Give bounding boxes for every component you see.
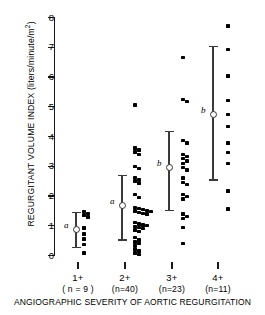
- data-point: [226, 189, 229, 192]
- error-bar-cap-lower: [165, 210, 174, 211]
- data-point: [141, 223, 144, 226]
- error-bar-cap-upper: [72, 212, 81, 213]
- data-point: [226, 74, 229, 77]
- x-axis-tick: [77, 262, 78, 269]
- error-bar-cap-upper: [209, 46, 218, 47]
- data-point: [145, 224, 148, 227]
- error-bar-cap-lower: [209, 179, 218, 180]
- data-point: [137, 196, 140, 199]
- data-point: [133, 165, 136, 168]
- data-point: [181, 166, 184, 169]
- data-point: [133, 193, 136, 196]
- data-point: [82, 243, 85, 246]
- data-point: [133, 209, 136, 212]
- data-point: [137, 181, 140, 184]
- data-point: [181, 98, 184, 101]
- x-axis-tick: [124, 262, 125, 269]
- data-point: [133, 179, 136, 182]
- data-point: [141, 212, 144, 215]
- error-bar-cap-upper: [165, 131, 174, 132]
- significance-letter: b: [157, 159, 162, 168]
- data-point: [226, 162, 229, 165]
- data-point: [226, 141, 229, 144]
- mean-marker: [166, 164, 173, 171]
- data-point: [82, 226, 85, 229]
- data-point: [226, 48, 229, 51]
- data-point: [181, 193, 184, 196]
- data-point: [181, 217, 184, 220]
- data-point: [185, 141, 188, 144]
- data-point: [226, 151, 229, 154]
- significance-letter: a: [64, 221, 69, 230]
- error-bar-cap-lower: [72, 247, 81, 248]
- data-point: [133, 221, 136, 224]
- data-point: [137, 211, 140, 214]
- data-point: [86, 215, 89, 218]
- data-point: [141, 227, 144, 230]
- data-point: [133, 228, 136, 231]
- data-point: [141, 208, 144, 211]
- data-point: [185, 183, 188, 186]
- significance-letter: a: [110, 197, 115, 206]
- mean-marker: [73, 226, 80, 233]
- data-point: [181, 242, 184, 245]
- significance-letter: b: [201, 106, 206, 115]
- data-point: [137, 153, 140, 156]
- data-point: [137, 167, 140, 170]
- data-point: [145, 212, 148, 215]
- data-point: [82, 213, 85, 216]
- data-point: [181, 226, 184, 229]
- x-axis-title: ANGIOGRAPHIC SEVERITY OF AORTIC REGURGIT…: [0, 297, 265, 307]
- x-axis-category-label: 4+: [188, 272, 248, 283]
- mean-marker: [119, 202, 126, 209]
- scatter-plot-figure: 012345678 REGURGITANT VOLUME INDEX (lite…: [0, 0, 265, 315]
- data-point: [137, 253, 140, 256]
- data-point: [133, 103, 136, 106]
- data-point: [133, 150, 136, 153]
- error-bar-cap-lower: [118, 239, 127, 240]
- data-point: [181, 197, 184, 200]
- data-point: [226, 125, 229, 128]
- data-point: [82, 251, 85, 254]
- x-axis-sample-size-label: (n=11): [183, 284, 253, 294]
- data-point: [137, 226, 140, 229]
- data-point: [181, 212, 184, 215]
- data-point: [185, 195, 188, 198]
- data-point: [181, 153, 184, 156]
- data-point: [137, 207, 140, 210]
- data-point: [133, 236, 136, 239]
- data-point: [226, 24, 229, 27]
- x-axis-tick: [171, 262, 172, 269]
- data-point: [185, 168, 188, 171]
- error-bar-cap-upper: [118, 175, 127, 176]
- data-point: [185, 100, 188, 103]
- data-point: [185, 215, 188, 218]
- data-point: [133, 247, 136, 250]
- data-point: [149, 210, 152, 213]
- data-point: [226, 207, 229, 210]
- data-point: [133, 146, 136, 149]
- data-point: [185, 159, 188, 162]
- data-point: [181, 139, 184, 142]
- data-point: [226, 99, 229, 102]
- data-point: [137, 148, 140, 151]
- data-point: [185, 155, 188, 158]
- x-axis-tick: [217, 262, 218, 269]
- data-point: [133, 251, 136, 254]
- data-point: [137, 242, 140, 245]
- data-point: [181, 162, 184, 165]
- data-point: [181, 176, 184, 179]
- data-point: [181, 181, 184, 184]
- data-point: [82, 232, 85, 235]
- data-point: [181, 157, 184, 160]
- data-point: [181, 56, 184, 59]
- data-group-4plus: b: [0, 0, 60, 262]
- data-point: [137, 230, 140, 233]
- mean-marker: [210, 111, 217, 118]
- data-point: [82, 237, 85, 240]
- data-point: [226, 113, 229, 116]
